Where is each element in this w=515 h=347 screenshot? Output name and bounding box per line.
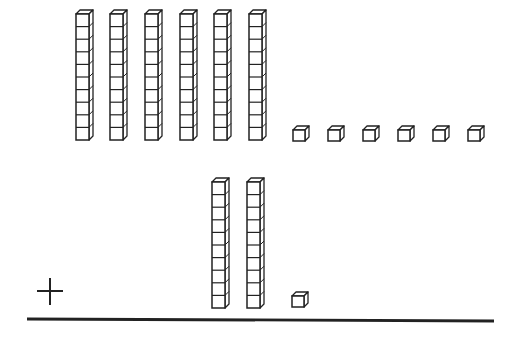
tens-rod: [212, 178, 229, 308]
tens-rod: [145, 10, 162, 140]
tens-rod: [214, 10, 231, 140]
tens-rod: [249, 10, 266, 140]
tens-rod: [247, 178, 264, 308]
ones-cube: [363, 126, 379, 141]
bottom-addend-blocks: [212, 178, 308, 308]
ones-cube: [292, 292, 308, 307]
plus-sign-icon: [37, 278, 63, 305]
ones-cube: [293, 126, 309, 141]
base-ten-blocks-diagram: +: [0, 0, 515, 347]
top-addend-blocks: [76, 10, 484, 141]
tens-rod: [180, 10, 197, 140]
ones-cube: [328, 126, 344, 141]
tens-rod: [76, 10, 93, 140]
tens-rod: [110, 10, 127, 140]
ones-cube: [468, 126, 484, 141]
sum-line: [27, 319, 494, 321]
ones-cube: [398, 126, 414, 141]
ones-cube: [433, 126, 449, 141]
